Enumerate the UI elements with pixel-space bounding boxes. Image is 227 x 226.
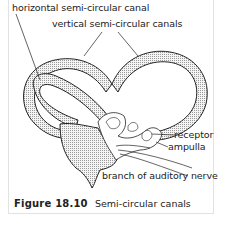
label-vertical-canals: vertical semi-circular canals <box>52 18 182 29</box>
label-ampulla: ampulla <box>168 141 206 152</box>
receptor-cupula-3 <box>128 122 138 131</box>
leader-vertical-right <box>118 32 138 56</box>
label-receptor: receptor <box>174 129 213 140</box>
horizontal-canal <box>33 74 108 128</box>
figure-title: Semi-circular canals <box>95 198 191 209</box>
leader-horizontal <box>16 14 40 80</box>
figure-caption: Figure 18.10 Semi-circular canals <box>14 198 191 209</box>
right-vertical-canal <box>112 51 207 140</box>
semicircular-canals-diagram <box>0 0 227 226</box>
figure-number: Figure 18.10 <box>14 198 88 209</box>
leader-ampulla <box>156 142 168 147</box>
label-auditory-nerve: branch of auditory nerve <box>102 170 218 181</box>
leader-vertical-left <box>84 32 102 56</box>
label-horizontal-canal: horizontal semi-circular canal <box>12 2 149 13</box>
receptor-cupula-2 <box>142 130 152 140</box>
